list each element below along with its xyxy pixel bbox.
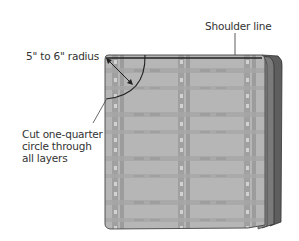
fabric-illustration — [0, 0, 299, 241]
cut-instruction-line-2: circle through — [22, 140, 112, 152]
shoulder-line-label: Shoulder line — [205, 20, 271, 32]
cut-instruction-line-1: Cut one-quarter — [22, 128, 112, 140]
cut-leader-line — [93, 100, 106, 123]
folded-fabric-diagram: Shoulder line 5" to 6" radius Cut one-qu… — [0, 0, 299, 241]
radius-label: 5" to 6" radius — [26, 50, 99, 62]
cut-instruction-label: Cut one-quarter circle through all layer… — [22, 128, 112, 164]
cut-instruction-line-3: all layers — [22, 152, 112, 164]
